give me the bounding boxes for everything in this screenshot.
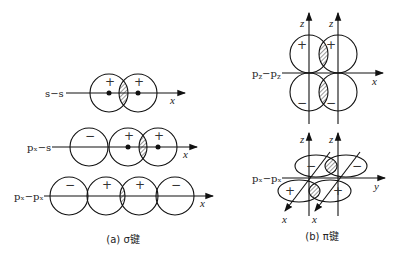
- row-px-px-pi: pₓ−pₓ − − + + z z y x x: [252, 133, 385, 225]
- nucleus-dot: [126, 145, 131, 150]
- phase-sign: +: [124, 129, 134, 143]
- phase-sign: −: [326, 96, 336, 110]
- axis-label-x: x: [311, 213, 317, 225]
- phase-sign: +: [297, 38, 307, 52]
- phase-sign: −: [85, 129, 95, 143]
- phase-sign: +: [326, 38, 336, 52]
- panel-a-sigma: s−s + + x pₓ−s − + + x: [14, 74, 213, 245]
- phase-sign: +: [102, 178, 112, 192]
- row-pz-pz: pz−pz + + − − z z x: [252, 13, 383, 124]
- row-px-s: pₓ−s − + + x: [27, 128, 197, 166]
- row-label: pₓ−s: [27, 142, 51, 153]
- nucleus-dot: [136, 91, 141, 96]
- axis-label-y: y: [373, 180, 379, 192]
- axis-label-x: x: [199, 197, 205, 209]
- row-s-s: s−s + + x: [45, 74, 185, 112]
- phase-sign: −: [171, 178, 181, 192]
- phase-sign: +: [134, 75, 144, 89]
- caption-b: (b) π键: [305, 230, 338, 242]
- panel-b-pi: pz−pz + + − − z z x pₓ−pₓ: [252, 13, 385, 242]
- phase-sign: +: [154, 129, 164, 143]
- axis-label-z: z: [328, 17, 334, 29]
- phase-sign: +: [285, 184, 295, 198]
- phase-sign: +: [333, 184, 343, 198]
- axis-label-x: x: [169, 94, 175, 106]
- nucleus-dot: [156, 145, 161, 150]
- row-label: pₓ−pₓ: [14, 191, 44, 202]
- phase-sign: +: [105, 75, 115, 89]
- phase-sign: −: [306, 159, 316, 173]
- phase-sign: +: [135, 178, 145, 192]
- nucleus-dot: [107, 91, 112, 96]
- axis-label-x: x: [371, 75, 377, 87]
- axis-label-z: z: [299, 133, 305, 145]
- phase-sign: −: [352, 159, 362, 173]
- phase-sign: −: [297, 96, 307, 110]
- row-label: pz−pz: [252, 68, 281, 81]
- row-px-px: pₓ−pₓ − + + − x: [14, 177, 213, 215]
- axis-label-z: z: [328, 133, 334, 145]
- axis-label-x: x: [182, 148, 188, 160]
- caption-a: (a) σ键: [106, 233, 139, 245]
- row-label: s−s: [45, 88, 64, 99]
- row-label: pₓ−pₓ: [252, 173, 282, 184]
- axis-label-z: z: [299, 17, 305, 29]
- axis-label-x: x: [281, 213, 287, 225]
- orbital-overlap-diagram: s−s + + x pₓ−s − + + x: [0, 0, 398, 258]
- phase-sign: −: [65, 178, 75, 192]
